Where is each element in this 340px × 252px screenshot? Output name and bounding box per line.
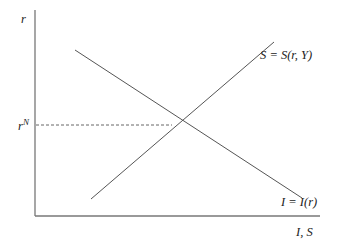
investment-curve-label: I = I(r) bbox=[280, 195, 317, 209]
saving-curve-label: S = S(r, Y) bbox=[260, 48, 312, 62]
x-axis-label: I, S bbox=[295, 225, 313, 239]
investment-curve bbox=[75, 50, 302, 198]
saving-curve bbox=[91, 42, 274, 199]
is-diagram: r rN S = S(r, Y) I = I(r) I, S bbox=[0, 0, 340, 252]
y-axis-label: r bbox=[21, 12, 26, 26]
equilibrium-rate-label: rN bbox=[18, 117, 30, 133]
equilibrium-rate-sup: N bbox=[22, 117, 30, 127]
